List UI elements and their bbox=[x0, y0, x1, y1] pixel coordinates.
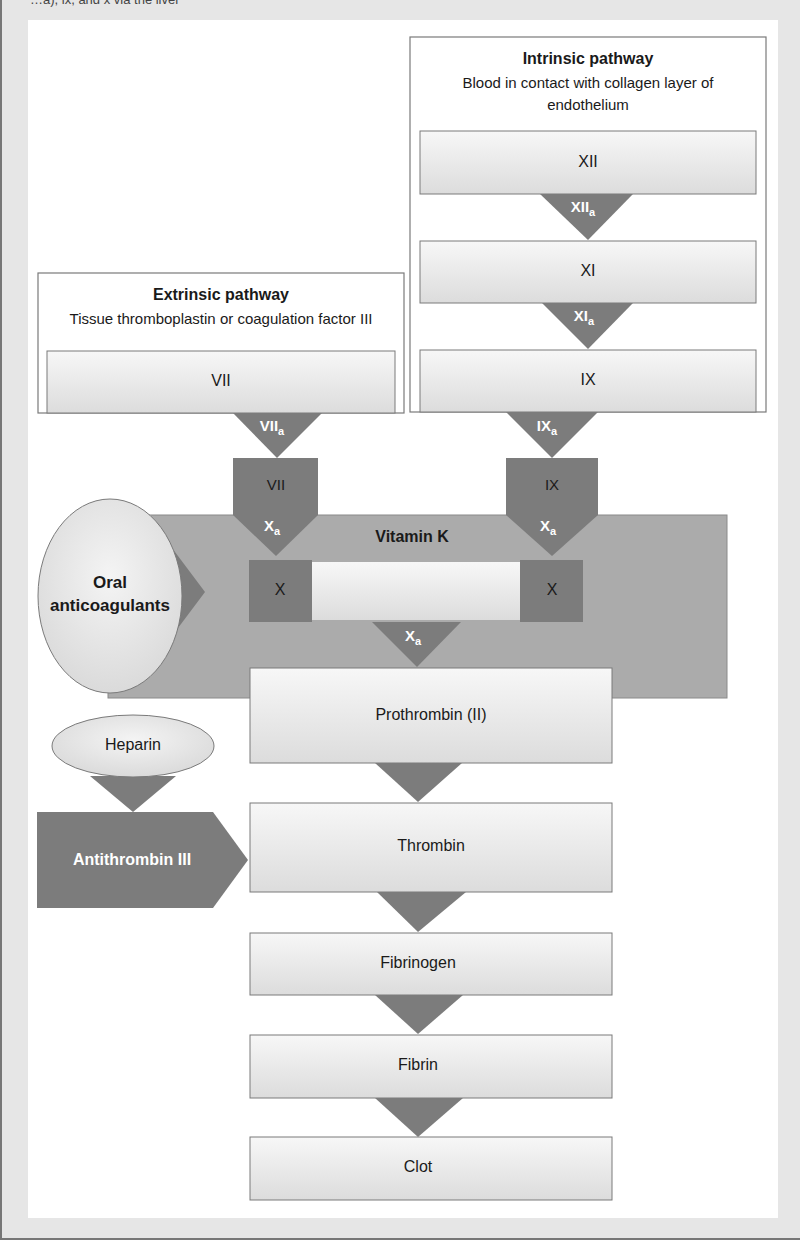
intrinsic-pathway: Intrinsic pathway Blood in contact with … bbox=[410, 37, 766, 412]
intrinsic-subtitle-2: endothelium bbox=[547, 96, 629, 113]
factor-ix-label: IX bbox=[580, 371, 595, 388]
antithrombin-iii-label: Antithrombin III bbox=[73, 851, 191, 868]
fibrin-to-clot-arrow bbox=[375, 1098, 463, 1137]
extrinsic-title: Extrinsic pathway bbox=[153, 286, 289, 303]
fibrinogen-label: Fibrinogen bbox=[380, 954, 456, 971]
thrombin-label: Thrombin bbox=[397, 837, 465, 854]
extrinsic-pathway: Extrinsic pathway Tissue thromboplastin … bbox=[38, 273, 404, 413]
factor-x-left-label: X bbox=[275, 581, 286, 598]
clot-label: Clot bbox=[404, 1158, 433, 1175]
extrinsic-subtitle: Tissue thromboplastin or coagulation fac… bbox=[70, 310, 373, 327]
coagulation-cascade-diagram: Intrinsic pathway Blood in contact with … bbox=[0, 0, 800, 1257]
oral-anticoagulants-line1: Oral bbox=[93, 573, 127, 592]
prothrombin-label: Prothrombin (II) bbox=[375, 706, 486, 723]
factor-x-right-label: X bbox=[547, 581, 558, 598]
thrombin-to-fibrinogen-arrow bbox=[377, 892, 466, 932]
factor-x-center bbox=[312, 562, 520, 620]
factor-xi-label: XI bbox=[580, 262, 595, 279]
heparin-arrow bbox=[90, 776, 176, 812]
fibrin-label: Fibrin bbox=[398, 1056, 438, 1073]
vii-arrow-top-label: VII bbox=[267, 476, 285, 493]
factor-vii-label: VII bbox=[211, 372, 231, 389]
ix-arrow-top-label: IX bbox=[545, 476, 559, 493]
vitamin-k-label: Vitamin K bbox=[375, 528, 449, 545]
intrinsic-title: Intrinsic pathway bbox=[523, 50, 654, 67]
prothrombin-to-thrombin-arrow bbox=[375, 763, 462, 802]
fibrinogen-to-fibrin-arrow bbox=[375, 995, 463, 1034]
intrinsic-subtitle-1: Blood in contact with collagen layer of bbox=[463, 74, 715, 91]
factor-xii-label: XII bbox=[578, 153, 598, 170]
heparin-label: Heparin bbox=[105, 736, 161, 753]
oral-anticoagulants-line2: anticoagulants bbox=[50, 596, 170, 615]
